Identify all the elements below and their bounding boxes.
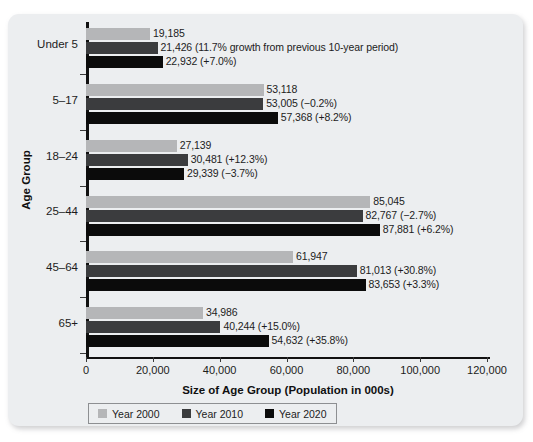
bar-value-label: 53,118	[267, 83, 298, 95]
x-axis-tick-label: 20,000	[136, 364, 170, 376]
bar[interactable]	[86, 335, 269, 347]
bar-group: 27,13930,481 (+12.3%)29,339 (−3.7%)	[86, 138, 487, 194]
bar[interactable]	[86, 28, 150, 40]
category-label: 25–44	[8, 205, 78, 217]
bar-group: 53,11853,005 (−0.2%)57,368 (+8.2%)	[86, 82, 487, 138]
bar-value-label: 30,481 (+12.3%)	[191, 153, 267, 165]
bar-value-label: 81,013 (+30.8%)	[360, 264, 436, 276]
bar-value-label: 61,947	[296, 250, 328, 262]
legend-label: Year 2000	[112, 408, 160, 420]
legend-swatch-icon	[182, 409, 191, 418]
category-label: Under 5	[8, 38, 78, 50]
x-axis-tick-label: 100,000	[400, 364, 440, 376]
bar-group: 34,98640,244 (+15.0%)54,632 (+35.8%)	[86, 305, 487, 361]
bar[interactable]	[86, 210, 363, 222]
bar-group: 85,04582,767 (−2.7%)87,881 (+6.2%)	[86, 194, 487, 250]
category-label: 5–17	[8, 94, 78, 106]
bar-value-label: 87,881 (+6.2%)	[383, 223, 454, 235]
bar[interactable]	[86, 112, 278, 124]
bar-value-label: 34,986	[206, 306, 238, 318]
category-label: 65+	[8, 317, 78, 329]
bar-group: 61,94781,013 (+30.8%)83,653 (+3.3%)	[86, 249, 487, 305]
bar[interactable]	[86, 251, 293, 263]
legend-label: Year 2010	[196, 408, 244, 420]
legend-swatch-icon	[98, 409, 107, 418]
bar[interactable]	[86, 279, 366, 291]
bar-value-label: 83,653 (+3.3%)	[369, 278, 440, 290]
category-label: 45–64	[8, 261, 78, 273]
bar[interactable]	[86, 321, 220, 333]
bar-value-label: 27,139	[180, 139, 212, 151]
plot-area: 19,18521,426 (11.7% growth from previous…	[86, 22, 487, 357]
legend-item[interactable]: Year 2010	[182, 408, 244, 420]
bar-value-label: 53,005 (−0.2%)	[266, 97, 337, 109]
bar-value-label: 29,339 (−3.7%)	[187, 167, 258, 179]
bar-value-label: 22,932 (+7.0%)	[166, 55, 237, 67]
legend-item[interactable]: Year 2020	[265, 408, 327, 420]
x-axis-tick	[487, 357, 488, 362]
x-axis-tick-label: 80,000	[337, 364, 371, 376]
x-axis-title: Size of Age Group (Population in 000s)	[86, 384, 490, 396]
category-axis-labels: Under 55–1718–2425–4445–6465+	[8, 22, 78, 357]
bar-value-label: 57,368 (+8.2%)	[281, 111, 352, 123]
x-axis-tick-label: 60,000	[270, 364, 304, 376]
bar-value-label: 85,045	[373, 195, 405, 207]
bar[interactable]	[86, 56, 163, 68]
bar[interactable]	[86, 307, 203, 319]
bar[interactable]	[86, 265, 357, 277]
bar[interactable]	[86, 154, 188, 166]
legend-swatch-icon	[265, 409, 274, 418]
x-axis-tick-label: 120,000	[467, 364, 507, 376]
category-label: 18–24	[8, 150, 78, 162]
bar[interactable]	[86, 42, 158, 54]
bar[interactable]	[86, 84, 264, 96]
bar[interactable]	[86, 196, 370, 208]
bar[interactable]	[86, 140, 177, 152]
x-axis-tick-label: 40,000	[203, 364, 237, 376]
chart-card: Age Group Under 55–1718–2425–4445–6465+ …	[8, 14, 523, 426]
x-axis-tick-label: 0	[83, 364, 89, 376]
bar-value-label: 54,632 (+35.8%)	[272, 334, 348, 346]
bar[interactable]	[86, 224, 380, 236]
legend-item[interactable]: Year 2000	[98, 408, 160, 420]
legend-label: Year 2020	[279, 408, 327, 420]
chart-legend: Year 2000Year 2010Year 2020	[88, 403, 337, 424]
bar-value-label: 19,185	[153, 27, 185, 39]
bar[interactable]	[86, 98, 263, 110]
bar-value-label: 21,426 (11.7% growth from previous 10-ye…	[161, 41, 399, 53]
bar-group: 19,18521,426 (11.7% growth from previous…	[86, 26, 487, 82]
bar-value-label: 82,767 (−2.7%)	[366, 209, 437, 221]
bar[interactable]	[86, 168, 184, 180]
bar-value-label: 40,244 (+15.0%)	[223, 320, 299, 332]
